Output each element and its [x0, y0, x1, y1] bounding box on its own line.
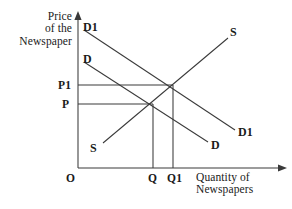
- demand-curve-d1: [84, 30, 235, 130]
- supply-curve-s: [103, 38, 228, 143]
- curve-label-d1-start: D1: [83, 21, 98, 34]
- y-axis-title: Price of the Newspaper: [6, 10, 72, 47]
- curve-label-d-start: D: [83, 53, 92, 66]
- x-axis-title: Quantity of Newspapers: [196, 171, 288, 196]
- y-tick-label-p: P: [62, 98, 69, 110]
- y-tick-label-p1: P1: [58, 79, 71, 91]
- y-axis-arrowhead: [74, 11, 81, 20]
- x-tick-label-q: Q: [148, 172, 157, 184]
- curve-label-d-end: D: [211, 139, 220, 152]
- curve-label-s-end: S: [230, 26, 237, 39]
- origin-label: O: [66, 172, 75, 184]
- curve-label-s-start: S: [90, 142, 97, 155]
- curve-label-d1-end: D1: [238, 126, 253, 139]
- x-tick-label-q1: Q1: [167, 172, 182, 184]
- diagram-canvas: Price of the Newspaper Quantity of Newsp…: [0, 0, 292, 209]
- demand-curve-d: [84, 62, 208, 142]
